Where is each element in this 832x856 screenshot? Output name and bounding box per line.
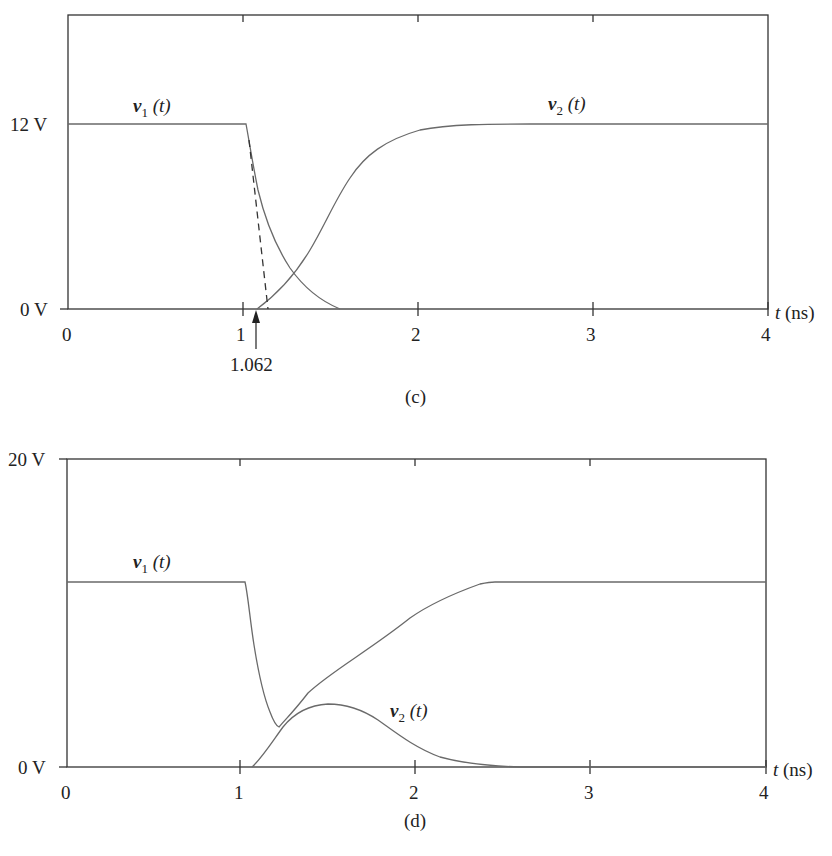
chart-d-v2-curve: [252, 704, 766, 767]
chart-c-xtick-label: 0: [62, 324, 72, 345]
figure: 12 V 0 V 0 1 2 3 4 t (ns) 1.062 v1 (t) v…: [0, 0, 832, 856]
chart-c-v2-label: v2 (t): [548, 93, 586, 118]
chart-c-v1-label: v1 (t): [133, 95, 171, 120]
chart-c-xtick-label: 3: [586, 324, 596, 345]
chart-c-xtick-label: 1: [236, 324, 246, 345]
chart-d-xticks: [240, 459, 766, 774]
chart-c-tangent-dashed-line: [249, 140, 268, 309]
chart-c-xtick-label: 4: [761, 324, 771, 345]
chart-d-ytick-zero-label: 0 V: [18, 757, 46, 778]
chart-c: 12 V 0 V 0 1 2 3 4 t (ns) 1.062 v1 (t) v…: [10, 15, 815, 408]
chart-c-v1-curve: [68, 124, 340, 309]
chart-d-xtick-label: 4: [759, 782, 769, 803]
chart-d-xtick-label: 2: [409, 782, 419, 803]
chart-c-arrow-label: 1.062: [230, 354, 273, 375]
chart-d-xtick-label: 1: [234, 782, 244, 803]
chart-d-v1-label: v1 (t): [133, 551, 171, 576]
chart-c-ytick-zero-label: 0 V: [20, 299, 48, 320]
chart-d-xtick-label: 0: [61, 782, 71, 803]
chart-d-v2-label: v2 (t): [390, 700, 428, 725]
chart-d: 20 V 0 V 0 1 2 3 4 t (ns) v1 (t) v2 (t) …: [8, 449, 813, 832]
chart-c-panel-label: (c): [405, 386, 426, 408]
chart-c-xticks: [243, 15, 768, 316]
chart-d-panel-label: (d): [404, 810, 426, 832]
arrow-up-icon: [252, 310, 260, 323]
chart-d-ytick-top-label: 20 V: [8, 449, 45, 470]
chart-c-xtick-label: 2: [411, 324, 421, 345]
chart-c-ytick-top-label: 12 V: [10, 114, 47, 135]
chart-c-xlabel: t (ns): [775, 302, 815, 324]
chart-d-xlabel: t (ns): [773, 759, 813, 781]
chart-c-v2-curve: [257, 124, 768, 309]
chart-c-frame: [68, 15, 768, 309]
chart-d-xtick-label: 3: [584, 782, 594, 803]
chart-c-arrow-annotation: [252, 310, 260, 349]
